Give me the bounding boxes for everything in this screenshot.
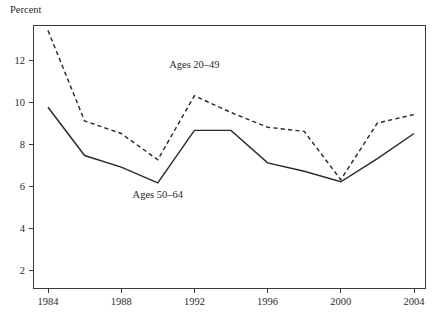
y-tick-label: 12 — [15, 55, 26, 66]
line-chart-canvas: Percent 24681012 19841988199219962000200… — [0, 0, 445, 319]
y-tick-label: 2 — [20, 265, 25, 276]
x-tick-label: 1988 — [111, 296, 132, 307]
y-tick-label: 4 — [20, 223, 26, 234]
series-label-ages-20-49: Ages 20–49 — [169, 59, 219, 70]
y-tick-label: 8 — [20, 139, 25, 150]
y-tick-label: 10 — [15, 97, 26, 108]
y-tick-label: 6 — [20, 181, 25, 192]
x-tick-label: 2000 — [330, 296, 351, 307]
series-label-ages-50-64: Ages 50–64 — [133, 189, 184, 200]
y-axis-title: Percent — [10, 4, 42, 15]
x-tick-label: 1996 — [257, 296, 278, 307]
x-tick-label: 1992 — [184, 296, 205, 307]
chart-figure: Percent 24681012 19841988199219962000200… — [0, 0, 445, 319]
x-tick-label: 2004 — [404, 296, 426, 307]
chart-background — [0, 0, 445, 319]
x-tick-label: 1984 — [38, 296, 60, 307]
